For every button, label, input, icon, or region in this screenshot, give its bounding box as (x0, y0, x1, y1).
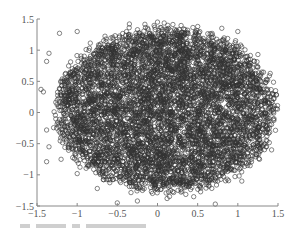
y-tick-label: 0 (29, 107, 34, 118)
data-point (44, 128, 48, 132)
data-point (78, 158, 82, 162)
data-point (92, 167, 96, 171)
data-point (191, 25, 195, 29)
x-axis-ticks: −1.5−1−0.500.511.5 (28, 203, 284, 219)
data-point (243, 48, 247, 52)
y-tick-label: 0.5 (22, 76, 35, 87)
data-point (192, 195, 196, 199)
data-point (172, 190, 176, 194)
y-tick-label: 1.5 (22, 14, 35, 25)
data-point (233, 174, 237, 178)
x-tick-label: 1 (235, 208, 240, 219)
data-point (214, 183, 218, 187)
data-point (95, 186, 99, 190)
data-point (236, 29, 240, 33)
data-point (57, 31, 61, 35)
x-tick-label: 0.5 (191, 208, 204, 219)
y-tick-label: −0.5 (16, 138, 34, 149)
cropped-caption (20, 224, 170, 230)
data-point (39, 87, 43, 91)
data-point (196, 24, 200, 28)
data-point (75, 29, 79, 33)
x-tick-label: −1 (72, 208, 83, 219)
data-point (155, 20, 159, 24)
y-axis-ticks: −1.5−1−0.500.511.5 (16, 14, 40, 212)
data-point (88, 41, 92, 45)
data-point (66, 64, 70, 68)
data-point (47, 51, 51, 55)
data-point (220, 26, 224, 30)
data-point (135, 199, 139, 203)
scatter-chart: −1.5−1−0.500.511.5 −1.5−1−0.500.511.5 (0, 0, 297, 231)
data-point (75, 171, 79, 175)
data-point (103, 34, 107, 38)
data-point (237, 174, 241, 178)
data-point (271, 80, 275, 84)
data-point (171, 22, 175, 26)
y-tick-label: 1 (29, 45, 34, 56)
data-point (184, 192, 188, 196)
data-point (118, 180, 122, 184)
y-tick-label: −1.5 (16, 201, 34, 212)
x-tick-label: −0.5 (108, 208, 126, 219)
data-point (240, 179, 244, 183)
data-point (44, 160, 48, 164)
data-point (68, 60, 72, 64)
data-point (269, 148, 273, 152)
scatter-points (39, 20, 280, 206)
data-point (59, 157, 63, 161)
data-point (143, 22, 147, 26)
y-tick-label: −1 (23, 169, 34, 180)
data-point (41, 90, 45, 94)
data-point (255, 60, 259, 64)
data-point (44, 59, 48, 63)
data-point (47, 145, 51, 149)
data-point (256, 52, 260, 56)
data-point (273, 128, 277, 132)
x-tick-label: 0 (155, 208, 160, 219)
data-point (249, 160, 253, 164)
x-tick-label: 1.5 (272, 208, 285, 219)
data-point (129, 190, 133, 194)
data-point (238, 166, 242, 170)
data-point (267, 74, 271, 78)
data-point (206, 104, 210, 108)
data-point (179, 23, 183, 27)
